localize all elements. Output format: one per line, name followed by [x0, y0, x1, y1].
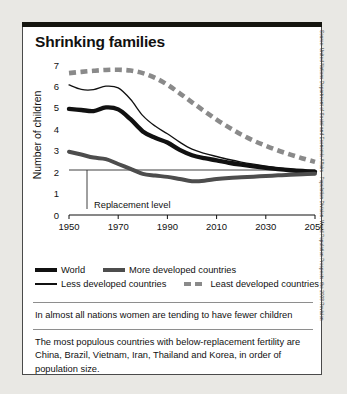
x-tick-label: 1990 — [157, 221, 178, 232]
source-credit: Source: United Nations Department of Soc… — [314, 30, 324, 370]
y-tick-label: 6 — [54, 81, 59, 92]
legend-item-world[interactable]: World — [35, 265, 85, 275]
legend-row-2: Less developed countries Least developed… — [35, 279, 313, 289]
panel-top-rule — [22, 22, 322, 27]
note-primary: In almost all nations women are tending … — [35, 309, 313, 322]
divider-bottom — [33, 329, 313, 330]
note-secondary: The most populous countries with below-r… — [35, 336, 311, 376]
y-tick-label: 1 — [54, 188, 59, 199]
line-chart-svg: 01234567195019701990201020302050Replacem… — [23, 57, 323, 257]
y-axis-label: Number of children — [31, 75, 43, 195]
legend-swatch-least-developed-icon — [184, 282, 206, 286]
legend-item-least-developed[interactable]: Least developed countries — [184, 279, 319, 289]
legend-label-least-developed: Least developed countries — [210, 279, 319, 289]
chart-legend: World More developed countries Less deve… — [35, 265, 313, 293]
chart-figure: Shrinking families Number of children 01… — [0, 0, 347, 394]
legend-row-1: World More developed countries — [35, 265, 313, 275]
legend-item-less-developed[interactable]: Less developed countries — [35, 279, 166, 289]
y-tick-label: 0 — [54, 210, 59, 221]
replacement-level-label: Replacement level — [94, 200, 170, 210]
y-tick-label: 4 — [54, 124, 59, 135]
y-tick-label: 5 — [54, 102, 59, 113]
legend-swatch-more-developed-icon — [103, 268, 125, 272]
x-tick-label: 2010 — [206, 221, 227, 232]
legend-swatch-less-developed-icon — [35, 283, 57, 285]
x-tick-label: 2030 — [255, 221, 276, 232]
chart-panel: Shrinking families Number of children 01… — [22, 22, 322, 375]
legend-label-less-developed: Less developed countries — [61, 279, 166, 289]
series-line-world — [69, 107, 315, 171]
y-tick-label: 7 — [54, 60, 59, 71]
y-tick-label: 2 — [54, 167, 59, 178]
plot-area: Number of children 012345671950197019902… — [23, 57, 323, 257]
x-tick-label: 1970 — [108, 221, 129, 232]
chart-title: Shrinking families — [35, 33, 165, 51]
legend-item-more-developed[interactable]: More developed countries — [103, 265, 236, 275]
legend-label-world: World — [61, 265, 85, 275]
series-line-least-developed-countries — [69, 70, 315, 162]
legend-label-more-developed: More developed countries — [129, 265, 236, 275]
divider-top — [33, 302, 313, 303]
y-tick-label: 3 — [54, 145, 59, 156]
legend-swatch-world-icon — [35, 268, 57, 272]
x-tick-label: 1950 — [58, 221, 79, 232]
